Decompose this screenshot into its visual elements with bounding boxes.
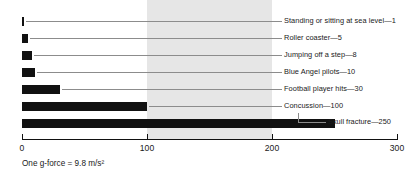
bar	[22, 17, 24, 26]
x-axis-tick	[147, 134, 148, 140]
bar	[22, 68, 35, 77]
bar-row: Football player hits—30	[0, 82, 417, 96]
bar-row: Standing or sitting at sea level—1	[0, 14, 417, 28]
plot-area: Standing or sitting at sea level—1 Rolle…	[0, 0, 417, 134]
x-axis-line	[22, 139, 397, 140]
bar-label: Blue Angel pilots—10	[284, 65, 355, 79]
leader-line	[149, 106, 282, 107]
bar-row: Concussion—100	[0, 99, 417, 113]
bar-row: Roller coaster—5	[0, 31, 417, 45]
bar-label: Roller coaster—5	[284, 31, 342, 45]
g-force-bar-chart: Standing or sitting at sea level—1 Rolle…	[0, 0, 417, 178]
bar-label: Concussion—100	[284, 99, 343, 113]
bar-label: Jumping off a step—8	[284, 48, 357, 62]
x-axis-tick	[272, 134, 273, 140]
footnote: One g-force = 9.8 m/s²	[22, 158, 104, 169]
leader-line	[37, 72, 283, 73]
bar-row: Jumping off a step—8	[0, 48, 417, 62]
bar	[22, 34, 28, 43]
bar	[22, 85, 60, 94]
bar-label: Skull fracture—250	[328, 116, 391, 128]
x-axis-tick-label: 300	[390, 143, 404, 154]
bar	[22, 102, 147, 111]
bar-row: Blue Angel pilots—10	[0, 65, 417, 79]
bar-label: Football player hits—30	[284, 82, 363, 96]
x-axis-tick-label: 0	[20, 143, 25, 154]
x-axis-tick-label: 200	[265, 143, 279, 154]
bar	[22, 51, 32, 60]
leader-line	[62, 89, 283, 90]
bar-label: Standing or sitting at sea level—1	[284, 14, 396, 28]
x-axis-tick	[397, 134, 398, 140]
callout-leader-horizontal	[298, 122, 326, 123]
leader-line	[30, 38, 282, 39]
leader-line	[26, 21, 282, 22]
bar	[22, 119, 335, 128]
x-axis-tick-label: 100	[140, 143, 154, 154]
x-axis-tick	[22, 134, 23, 140]
leader-line	[34, 55, 282, 56]
